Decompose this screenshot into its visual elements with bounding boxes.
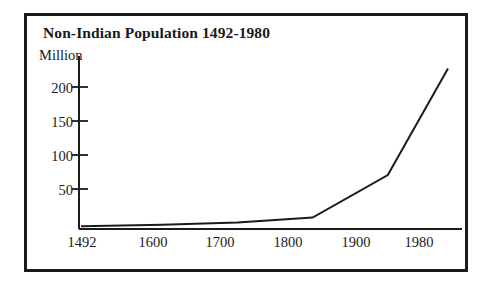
plot-area <box>27 16 465 269</box>
chart-svg <box>27 16 465 269</box>
population-data-line <box>81 69 448 227</box>
chart-page: Non-Indian Population 1492-1980 Million … <box>0 0 491 291</box>
chart-frame: Non-Indian Population 1492-1980 Million … <box>24 13 468 272</box>
